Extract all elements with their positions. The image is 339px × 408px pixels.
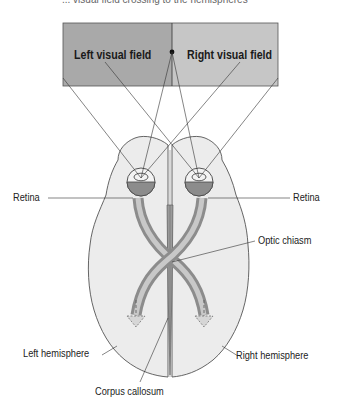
corpus-callosum-label: Corpus callosum: [95, 385, 164, 397]
right-hemisphere-shape: [172, 136, 249, 377]
retina-left-label: Retina: [13, 191, 40, 203]
optic-chiasm-label: Optic chiasm: [258, 234, 311, 246]
retina-right-label: Retina: [293, 191, 320, 203]
left-visual-field-label: Left visual field: [74, 48, 151, 62]
left-hemisphere-shape: [88, 136, 168, 377]
right-visual-field-label: Right visual field: [187, 48, 272, 62]
right-eye: [185, 168, 213, 196]
right-hemisphere-label: Right hemisphere: [236, 349, 308, 361]
left-eye: [127, 168, 155, 196]
left-hemisphere-label: Left hemisphere: [23, 347, 89, 359]
